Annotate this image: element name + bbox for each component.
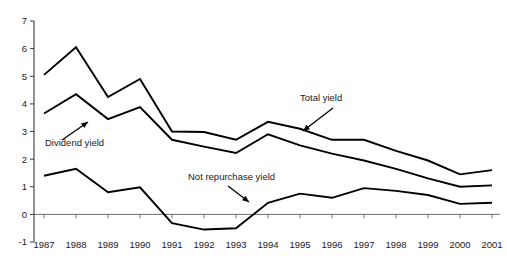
y-tick-label: 3 [22, 126, 27, 137]
x-tick-label: 1987 [33, 239, 54, 250]
x-axis: 1987198819891990199119921993199419951996… [33, 214, 502, 250]
y-tick-label: 6 [22, 43, 27, 54]
x-tick-label: 1998 [385, 239, 406, 250]
x-tick-label: 1995 [289, 239, 310, 250]
x-tick-label: 1992 [193, 239, 214, 250]
x-tick-label: 1989 [97, 239, 118, 250]
y-axis: -101234567 [19, 15, 34, 247]
y-tick-label: 1 [22, 181, 27, 192]
x-tick-label: 1993 [225, 239, 246, 250]
x-tick-label: 1996 [321, 239, 342, 250]
y-tick-label: 0 [22, 209, 27, 220]
x-tick-label: 1999 [417, 239, 438, 250]
series-line-total-yield [44, 47, 492, 174]
y-tick-label: -1 [19, 236, 27, 247]
y-tick-label: 5 [22, 71, 27, 82]
annotation-label-total-yield: Total yield [300, 92, 342, 103]
x-tick-label: 1990 [129, 239, 150, 250]
y-tick-label: 2 [22, 154, 27, 165]
chart-container: -101234567 19871988198919901991199219931… [0, 0, 507, 262]
x-tick-label: 2001 [481, 239, 502, 250]
annotation-label-not-repurchase-yield: Not repurchase yield [188, 171, 275, 182]
x-tick-label: 1994 [257, 239, 278, 250]
y-tick-label: 4 [22, 98, 27, 109]
x-tick-label: 2000 [449, 239, 470, 250]
annotation-label-dividend-yield: Dividend yield [45, 137, 104, 148]
annotation-arrowhead-not-repurchase-yield [242, 196, 249, 202]
y-tick-label: 7 [22, 15, 27, 26]
x-tick-label: 1988 [65, 239, 86, 250]
data-series-group [44, 47, 492, 229]
annotation-group: Total yieldDividend yieldNot repurchase … [45, 92, 342, 202]
line-chart: -101234567 19871988198919901991199219931… [0, 0, 507, 262]
x-tick-label: 1991 [161, 239, 182, 250]
x-tick-label: 1997 [353, 239, 374, 250]
annotation-arrowhead-dividend-yield [81, 122, 88, 128]
